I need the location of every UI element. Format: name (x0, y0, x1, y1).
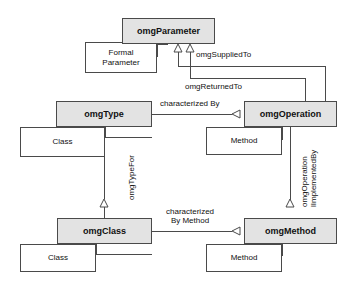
tether-type-class (105, 127, 152, 137)
edge-label-omgreturnedto-text: omgReturnedTo (185, 82, 242, 91)
edge-label-omgoperation-implementedby: omgOperation lImplementedBy (300, 135, 318, 207)
node-omgtype[interactable]: omgType (56, 101, 152, 127)
arrowhead-characterized-by (232, 110, 240, 118)
subnode-class-class-label: Class (48, 253, 68, 263)
arrowhead-characterized-by-method (232, 227, 240, 235)
edge-label-omgsuppliedto-text: omgSuppliedTo (196, 50, 251, 59)
node-omgmethod[interactable]: omgMethod (244, 218, 337, 244)
subnode-method-method: Method (206, 244, 282, 272)
subnode-operation-method-label: Method (231, 136, 258, 146)
edge-label-characterized-by-method: characterized By Method (166, 207, 214, 225)
node-omgparameter-label: omgParameter (137, 26, 200, 36)
subnode-type-class-label: Class (52, 137, 72, 147)
node-omgparameter[interactable]: omgParameter (122, 18, 215, 44)
node-omgclass[interactable]: omgClass (57, 218, 152, 244)
node-omgtype-label: omgType (84, 109, 123, 119)
edge-label-characterized-by-method-text: characterized By Method (166, 207, 214, 225)
subnode-class-class: Class (20, 244, 96, 272)
edge-label-characterized-by-text: characterized By (160, 99, 220, 108)
subnode-operation-method: Method (206, 127, 282, 155)
subnode-method-method-label: Method (231, 253, 258, 263)
edge-label-omgtypefor-text: omgTypeFor (127, 155, 136, 200)
node-omgoperation[interactable]: omgOperation (244, 101, 337, 127)
arrowhead-omgtypefor (100, 199, 108, 207)
node-omgoperation-label: omgOperation (260, 109, 322, 119)
edge-label-omgsuppliedto: omgSuppliedTo (196, 50, 251, 59)
node-omgclass-label: omgClass (83, 226, 126, 236)
subnode-type-class: Class (20, 127, 105, 157)
edge-label-characterized-by: characterized By (160, 99, 220, 108)
tether-class-class (96, 244, 152, 254)
edge-label-omgtypefor: omgTypeFor (127, 155, 136, 200)
arrowhead-omgreturnedto (186, 44, 194, 52)
subnode-formal-parameter: Formal Parameter (85, 42, 157, 73)
edge-label-omgoperation-implementedby-text: omgOperation lImplementedBy (300, 135, 318, 207)
edge-label-omgreturnedto: omgReturnedTo (185, 82, 242, 91)
diagram-canvas: Formal Parameter Class Method Class Meth… (0, 0, 353, 285)
arrowhead-omgoperation-implementedby (286, 199, 294, 207)
subnode-formal-parameter-label: Formal Parameter (102, 48, 139, 68)
arrowhead-omgsuppliedto (174, 44, 182, 52)
node-omgmethod-label: omgMethod (265, 226, 316, 236)
